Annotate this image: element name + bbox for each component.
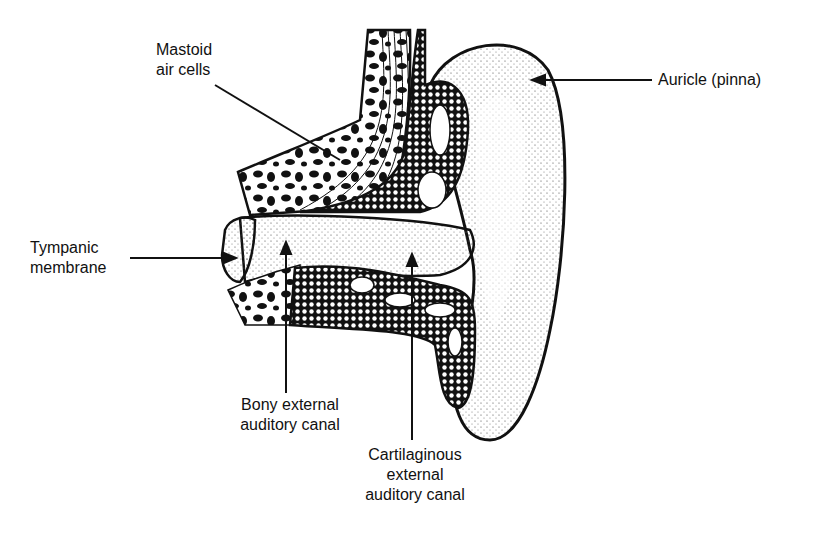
label-tympanic-membrane: Tympanic membrane bbox=[30, 238, 106, 278]
label-bony-canal: Bony external auditory canal bbox=[220, 395, 360, 435]
label-cartilaginous-canal: Cartilaginous external auditory canal bbox=[350, 445, 480, 505]
label-auricle: Auricle (pinna) bbox=[658, 70, 761, 90]
mastoid-leader bbox=[215, 85, 340, 160]
ear-diagram: Mastoid air cells Auricle (pinna) Tympan… bbox=[0, 0, 813, 536]
label-mastoid-air-cells: Mastoid air cells bbox=[156, 40, 212, 80]
lower-cartilage bbox=[290, 266, 475, 408]
